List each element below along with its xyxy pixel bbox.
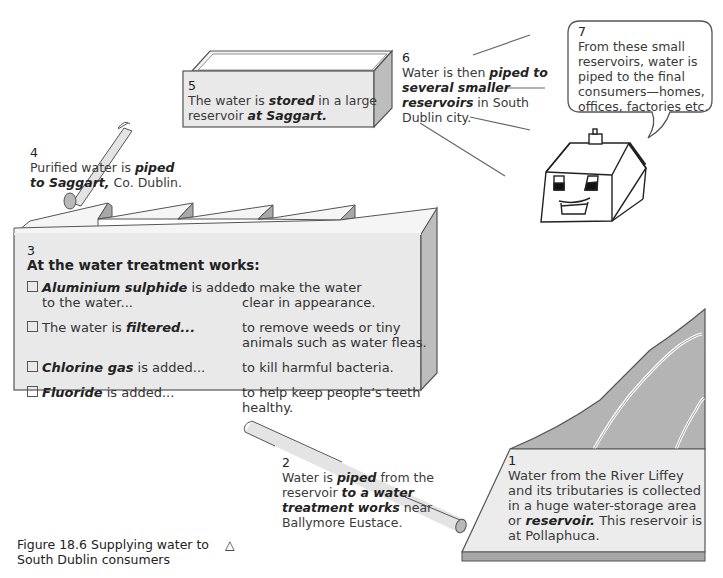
treatment-row-chlorine: Chlorine gas is added... [27, 360, 205, 375]
treatment-purpose-chlorine: to kill harmful bacteria. [242, 360, 394, 375]
checkbox-icon [27, 361, 38, 372]
figure-caption: Figure 18.6 Supplying water to △ South D… [17, 537, 235, 567]
step-1-number: 1 [508, 453, 702, 468]
step-5-number: 5 [188, 78, 377, 93]
treatment-purpose-aluminium: to make the water clear in appearance. [242, 280, 375, 310]
step-6-text: 6 Water is then piped to several smaller… [402, 50, 548, 125]
step-6-number: 6 [402, 50, 548, 65]
treatment-row-fluoride: Fluoride is added... [27, 385, 174, 400]
step-3-heading-block: 3 At the water treatment works: [27, 243, 260, 273]
step-7-text: 7 From these small reservoirs, water is … [578, 24, 708, 114]
step-5-text: 5 The water is stored in a large reservo… [188, 78, 377, 123]
step-7-number: 7 [578, 24, 708, 39]
checkbox-icon [27, 386, 38, 397]
treatment-row-filtered: The water is filtered... [27, 320, 195, 335]
house-drawing [541, 129, 646, 222]
step-2-number: 2 [282, 455, 434, 470]
treatment-purpose-fluoride: to help keep people’s teeth healthy. [242, 385, 420, 415]
step-4-text: 4 Purified water is piped to Saggart, Co… [30, 145, 182, 190]
step-3-number: 3 [27, 243, 260, 258]
step-1-text: 1 Water from the River Liffey and its tr… [508, 453, 702, 543]
treatment-row-aluminium: Aluminium sulphide is added to the water… [27, 280, 247, 310]
step-2-text: 2 Water is piped from the reservoir to a… [282, 455, 434, 530]
treatment-purpose-filtered: to remove weeds or tiny animals such as … [242, 320, 427, 350]
triangle-icon: △ [225, 537, 235, 552]
step-3-heading: At the water treatment works: [27, 257, 260, 273]
step-4-number: 4 [30, 145, 182, 160]
checkbox-icon [27, 321, 38, 332]
checkbox-icon [27, 281, 38, 292]
